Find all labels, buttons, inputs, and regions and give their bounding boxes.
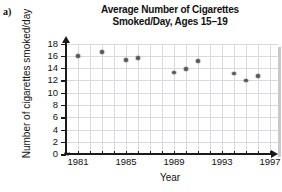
y-axis-tick-label: 6	[36, 111, 58, 122]
grid-line-vertical	[90, 44, 91, 154]
grid-line-vertical	[102, 44, 103, 154]
data-point	[124, 58, 128, 62]
x-axis-tick	[78, 151, 79, 155]
data-point	[76, 54, 80, 58]
y-axis-tick	[61, 44, 66, 45]
y-axis-tick	[61, 142, 66, 143]
grid-line-horizontal	[65, 105, 278, 106]
x-axis-tick-label: 1981	[58, 156, 98, 167]
y-axis-line	[65, 42, 67, 154]
grid-line-horizontal	[65, 117, 278, 118]
y-axis-tick-label: 4	[36, 124, 58, 135]
y-axis-tick-label: 14	[36, 62, 58, 73]
plot-area	[65, 44, 278, 154]
grid-line-horizontal	[65, 44, 278, 45]
grid-line-vertical	[150, 44, 151, 154]
y-axis-tick-label: 10	[36, 87, 58, 98]
data-point	[100, 50, 104, 54]
chart-title-line-1: Average Number of Cigarettes	[101, 4, 239, 15]
y-axis-tick-label: 12	[36, 74, 58, 85]
grid-line-vertical	[138, 44, 139, 154]
grid-line-horizontal	[65, 93, 278, 94]
x-axis-tick	[270, 151, 271, 155]
x-axis-tick	[258, 151, 259, 155]
x-axis-tick	[210, 151, 211, 155]
x-axis-tick	[114, 151, 115, 155]
x-axis-tick	[102, 151, 103, 155]
data-point	[196, 59, 200, 63]
grid-line-vertical	[174, 44, 175, 154]
data-point	[256, 74, 260, 78]
grid-line-vertical	[234, 44, 235, 154]
y-axis-tick-label: 8	[36, 99, 58, 110]
grid-line-vertical	[114, 44, 115, 154]
y-axis-title: Number of cigarettes smoked/day	[21, 0, 32, 174]
x-axis-tick	[222, 151, 223, 155]
y-axis-tick-label: 2	[36, 136, 58, 147]
grid-line-horizontal	[65, 142, 278, 143]
grid-line-vertical	[258, 44, 259, 154]
x-axis-title: Year	[62, 172, 278, 183]
grid-line-vertical	[222, 44, 223, 154]
grid-line-horizontal	[65, 130, 278, 131]
grid-line-horizontal	[65, 56, 278, 57]
y-axis-arrow-icon	[62, 36, 70, 43]
y-axis-tick-label: 18	[36, 38, 58, 49]
data-point	[244, 79, 248, 83]
grid-line-vertical	[246, 44, 247, 154]
grid-line-vertical	[270, 44, 271, 154]
x-axis-tick-label: 1985	[106, 156, 146, 167]
x-axis-tick	[186, 151, 187, 155]
x-axis-tick	[90, 151, 91, 155]
y-axis-tick	[61, 105, 66, 106]
grid-line-vertical	[186, 44, 187, 154]
data-point	[172, 71, 176, 75]
y-axis-tick	[61, 56, 66, 57]
x-axis-tick	[246, 151, 247, 155]
grid-line-vertical	[210, 44, 211, 154]
data-point	[184, 67, 188, 71]
x-axis-tick	[174, 151, 175, 155]
y-axis-tick	[61, 130, 66, 131]
plot-shadow	[278, 47, 281, 157]
x-axis-tick-label: 1997	[250, 156, 282, 167]
x-axis-tick	[126, 151, 127, 155]
y-axis-tick	[61, 117, 66, 118]
figure-container: a) Average Number of Cigarettes Smoked/D…	[0, 0, 282, 192]
x-axis-tick	[162, 151, 163, 155]
y-axis-tick	[61, 68, 66, 69]
part-label: a)	[3, 6, 11, 17]
x-axis-tick	[234, 151, 235, 155]
grid-line-vertical	[78, 44, 79, 154]
chart-title: Average Number of Cigarettes Smoked/Day,…	[62, 4, 278, 28]
y-axis-tick-label: 16	[36, 50, 58, 61]
data-point	[136, 56, 140, 60]
x-axis-tick	[198, 151, 199, 155]
x-axis-tick	[150, 151, 151, 155]
chart-title-line-2: Smoked/Day, Ages 15–19	[62, 16, 278, 28]
x-axis-tick	[138, 151, 139, 155]
x-axis-tick-label: 1993	[202, 156, 242, 167]
y-axis-tick	[61, 80, 66, 81]
grid-line-horizontal	[65, 68, 278, 69]
x-axis-tick-label: 1989	[154, 156, 194, 167]
x-axis-line	[65, 153, 273, 155]
y-axis-tick-label: 0	[36, 148, 58, 159]
grid-line-vertical	[162, 44, 163, 154]
y-axis-tick	[61, 93, 66, 94]
